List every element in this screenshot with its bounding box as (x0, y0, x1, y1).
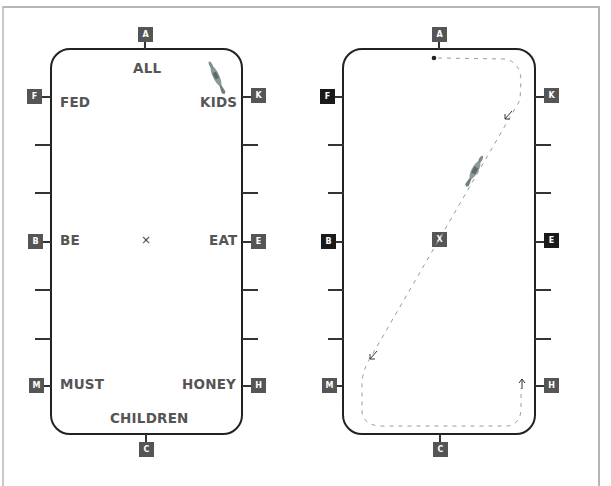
arrow-down-left-icon (505, 111, 512, 119)
horse-icon (463, 154, 485, 188)
path-start-dot (432, 56, 437, 61)
arrow-up-icon (519, 379, 525, 389)
